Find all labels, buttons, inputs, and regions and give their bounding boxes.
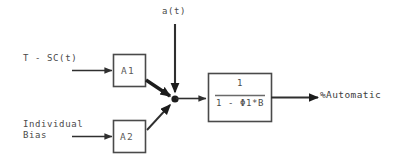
transfer-function-denominator: 1 - Φ1*B — [206, 98, 274, 108]
transfer-function-numerator: 1 — [208, 78, 272, 88]
input-top-label: T - SC(t) — [23, 53, 77, 64]
disturbance-label: a(t) — [162, 6, 186, 17]
arrow-a1-to-junction — [146, 80, 170, 96]
diagram-canvas: a(t) T - SC(t) Individual Bias A1 A2 1 1… — [0, 0, 404, 165]
gain-a2-label: A2 — [120, 131, 134, 142]
output-label: %Automatic — [320, 89, 381, 100]
gain-a1-label: A1 — [121, 65, 135, 76]
input-bottom-label: Individual Bias — [23, 119, 83, 141]
arrow-a2-to-junction — [147, 105, 170, 130]
